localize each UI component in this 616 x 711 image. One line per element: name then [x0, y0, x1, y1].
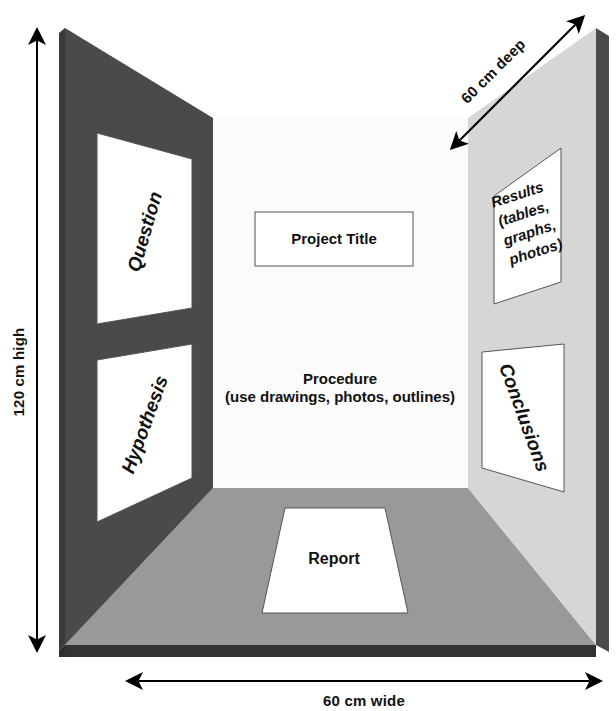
left-wall-edge: [59, 28, 65, 650]
right-wall-edge: [596, 28, 609, 652]
back-wall: [213, 118, 468, 488]
width-dimension-label: 60 cm wide: [323, 692, 405, 709]
board-svg: Question Hypothesis Project Title Proced…: [0, 0, 616, 711]
procedure-line-1: Procedure: [303, 370, 377, 387]
card-report-label: Report: [308, 550, 360, 567]
procedure-line-2: (use drawings, photos, outlines): [225, 388, 455, 405]
height-dimension-label: 120 cm high: [10, 328, 27, 417]
card-project-title-label: Project Title: [291, 230, 377, 247]
floor-front-edge: [65, 645, 596, 657]
display-board-diagram: Question Hypothesis Project Title Proced…: [0, 0, 616, 711]
